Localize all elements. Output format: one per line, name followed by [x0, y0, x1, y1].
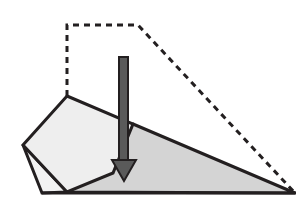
- physics-diagram-svg: [0, 0, 307, 203]
- arrow-shaft: [119, 57, 128, 163]
- figure-root: [0, 0, 307, 203]
